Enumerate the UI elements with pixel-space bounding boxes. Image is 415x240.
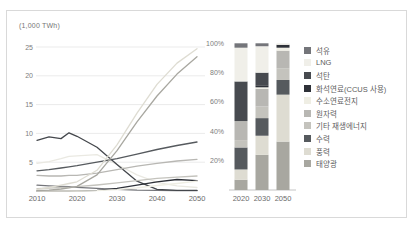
bar-chart-x-tick: 2020 xyxy=(233,194,250,203)
bar-segment-2030-기타 재생에너지 xyxy=(256,106,269,118)
line-chart-y-tick: 10 xyxy=(25,130,33,137)
bar-segment-2050-기타 재생에너지 xyxy=(277,68,290,80)
y-axis-unit-label: (1,000 TWh) xyxy=(19,22,60,29)
line-chart-x-tick: 2030 xyxy=(109,194,126,203)
bar-chart-y-tick: 60% xyxy=(210,98,224,105)
legend-swatch-icon xyxy=(304,47,311,54)
legend-swatch-icon xyxy=(304,160,311,167)
bar-segment-2030-수소연료전지 xyxy=(256,87,269,88)
line-series-태양광 xyxy=(37,57,197,191)
bar-segment-2030-석탄 xyxy=(256,73,269,86)
line-chart-x-tick: 2020 xyxy=(69,194,86,203)
legend-item: 석유 xyxy=(304,44,386,57)
legend-label: 석유 xyxy=(316,45,330,56)
bar-segment-2030-화석연료(CCUS 사용) xyxy=(256,86,269,87)
legend-item: 원자력 xyxy=(304,107,386,120)
bar-segment-2020-석탄 xyxy=(235,81,248,121)
bar-chart-y-tick: 40% xyxy=(210,128,224,135)
legend-swatch-icon xyxy=(304,148,311,155)
line-chart-y-tick: 5 xyxy=(29,159,33,166)
bar-segment-2020-풍력 xyxy=(235,169,248,179)
legend-swatch-icon xyxy=(304,122,311,129)
legend-swatch-icon xyxy=(304,135,311,142)
legend-label: 수력 xyxy=(316,133,330,144)
bar-segment-2050-LNG xyxy=(277,43,290,44)
bar-chart-y-tick: 20% xyxy=(210,157,224,164)
legend-item: LNG xyxy=(304,57,386,70)
legend-item: 태양광 xyxy=(304,157,386,170)
line-chart-y-tick: 20 xyxy=(25,72,33,79)
bar-chart-x-tick: 2030 xyxy=(254,194,271,203)
line-chart-x-tick: 2010 xyxy=(29,194,46,203)
line-chart-y-tick: 25 xyxy=(25,44,33,51)
bar-segment-2020-LNG xyxy=(235,48,248,82)
legend: 석유LNG석탄화석연료(CCUS 사용)수소연료전지원자력기타 재생에너지수력풍… xyxy=(304,44,386,170)
bar-chart-y-tick: 100% xyxy=(206,40,224,47)
legend-item: 기타 재생에너지 xyxy=(304,120,386,133)
legend-label: 원자력 xyxy=(316,108,337,119)
bar-segment-2050-수소연료전지 xyxy=(277,48,290,51)
bar-chart-y-tick: 80% xyxy=(210,69,224,76)
legend-item: 화석연료(CCUS 사용) xyxy=(304,82,386,95)
legend-item: 수력 xyxy=(304,132,386,145)
bar-segment-2020-태양광 xyxy=(235,180,248,190)
legend-label: 기타 재생에너지 xyxy=(316,120,367,131)
legend-label: LNG xyxy=(316,58,331,67)
bar-segment-2030-LNG xyxy=(256,46,269,72)
legend-swatch-icon xyxy=(304,85,311,92)
bar-segment-2020-석유 xyxy=(235,43,248,47)
bar-segment-2030-풍력 xyxy=(256,136,269,155)
line-chart-x-tick: 2050 xyxy=(189,194,206,203)
bar-segment-2050-화석연료(CCUS 사용) xyxy=(277,45,290,48)
bar-segment-2050-수력 xyxy=(277,80,290,95)
legend-item: 수소연료전지 xyxy=(304,94,386,107)
legend-label: 태양광 xyxy=(316,158,337,169)
bar-segment-2020-원자력 xyxy=(235,121,248,140)
legend-swatch-icon xyxy=(304,97,311,104)
legend-label: 수소연료전지 xyxy=(316,95,358,106)
legend-label: 화석연료(CCUS 사용) xyxy=(316,83,386,94)
legend-swatch-icon xyxy=(304,59,311,66)
line-series-수력 xyxy=(37,142,197,171)
bar-segment-2020-수력 xyxy=(235,147,248,169)
legend-label: 풍력 xyxy=(316,146,330,157)
legend-item: 석탄 xyxy=(304,69,386,82)
legend-swatch-icon xyxy=(304,72,311,79)
bar-segment-2030-원자력 xyxy=(256,89,269,107)
bar-segment-2020-기타 재생에너지 xyxy=(235,140,248,147)
bar-segment-2030-수력 xyxy=(256,118,269,136)
bar-chart-x-tick: 2050 xyxy=(275,194,292,203)
legend-swatch-icon xyxy=(304,110,311,117)
bar-segment-2030-태양광 xyxy=(256,155,269,190)
legend-item: 풍력 xyxy=(304,145,386,158)
bar-segment-2050-태양광 xyxy=(277,142,290,190)
legend-label: 석탄 xyxy=(316,70,330,81)
line-chart-y-tick: 15 xyxy=(25,101,33,108)
bar-segment-2030-석유 xyxy=(256,43,269,46)
line-chart-x-tick: 2040 xyxy=(149,194,166,203)
bar-segment-2050-풍력 xyxy=(277,95,290,142)
bar-segment-2050-원자력 xyxy=(277,51,290,69)
